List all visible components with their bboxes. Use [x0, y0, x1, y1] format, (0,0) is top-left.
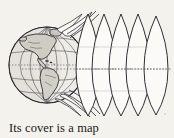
globe-map-gores-illustration	[0, 0, 174, 138]
print-speck	[164, 113, 165, 114]
globe	[9, 27, 85, 103]
figure-caption: Its cover is a map	[9, 121, 169, 136]
figure-root: Its cover is a map	[0, 0, 174, 138]
